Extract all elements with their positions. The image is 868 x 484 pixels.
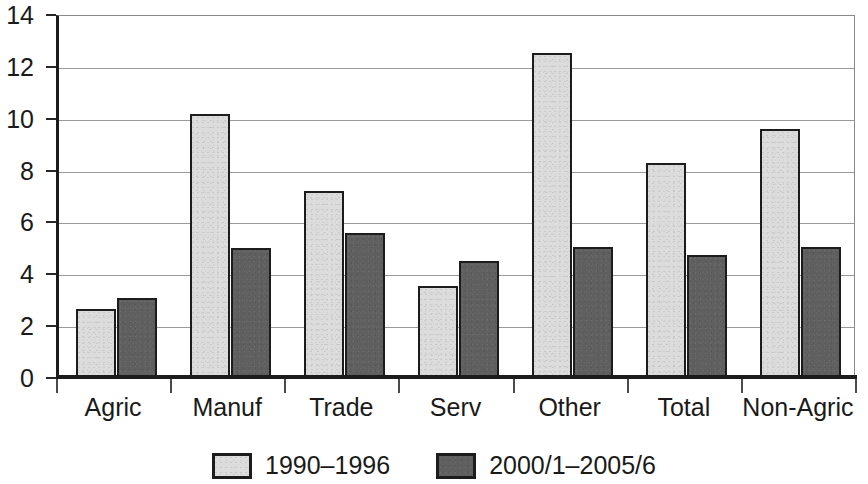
bar	[801, 247, 841, 378]
x-axis-tick-label: Manuf	[192, 392, 261, 422]
bar	[646, 163, 686, 378]
x-axis-tick-label: Serv	[430, 392, 481, 422]
y-axis-tick-label: 14	[6, 3, 34, 28]
x-axis-tick-label: Trade	[309, 392, 373, 422]
y-axis-tick-label: 2	[20, 314, 34, 339]
light-gray-swatch	[212, 453, 252, 479]
category-separator-tick	[284, 379, 286, 393]
bar	[117, 298, 157, 378]
x-axis-tick-label: Non-Agric	[742, 392, 853, 422]
bar	[231, 248, 271, 378]
y-axis-tick-label: 8	[20, 158, 34, 183]
bar	[304, 191, 344, 378]
legend-entry: 2000/1–2005/6	[436, 453, 656, 479]
y-axis-tick-mark	[46, 325, 56, 327]
y-axis-tick-mark	[46, 14, 56, 16]
y-axis-tick-label: 10	[6, 106, 34, 131]
bar	[345, 233, 385, 378]
bar	[760, 129, 800, 378]
bar	[76, 309, 116, 378]
category-separator-tick	[170, 379, 172, 393]
x-axis-tick-label: Agric	[85, 392, 142, 422]
bar	[459, 261, 499, 378]
legend-label: 2000/1–2005/6	[489, 453, 656, 478]
x-axis-tick-label: Total	[657, 392, 710, 422]
category-separator-tick	[855, 379, 857, 393]
x-axis-tick-label: Other	[538, 392, 601, 422]
category-separator-tick	[56, 379, 58, 393]
legend-entry: 1990–1996	[212, 453, 390, 479]
legend-label: 1990–1996	[265, 453, 390, 478]
bar	[418, 286, 458, 378]
dark-gray-swatch	[436, 453, 476, 479]
category-separator-tick	[513, 379, 515, 393]
category-separator-tick	[741, 379, 743, 393]
y-axis-tick-label: 4	[20, 262, 34, 287]
plot-area	[56, 15, 855, 378]
bar	[532, 53, 572, 378]
bar	[573, 247, 613, 378]
x-axis: AgricManufTradeServOtherTotalNon-Agric	[0, 392, 868, 432]
grouped-bar-chart: 14121086420 AgricManufTradeServOtherTota…	[0, 0, 868, 484]
bars-layer	[59, 16, 854, 378]
legend: 1990–19962000/1–2005/6	[0, 447, 868, 484]
y-axis-tick-label: 6	[20, 210, 34, 235]
y-axis-tick-mark	[46, 221, 56, 223]
y-axis-tick-mark	[46, 170, 56, 172]
category-separator-tick	[398, 379, 400, 393]
bar	[190, 114, 230, 378]
y-axis-tick-mark	[46, 273, 56, 275]
y-axis-tick-label: 12	[6, 54, 34, 79]
bar	[687, 255, 727, 378]
y-axis-tick-mark	[46, 118, 56, 120]
y-axis-tick-mark	[46, 66, 56, 68]
category-separator-tick	[627, 379, 629, 393]
